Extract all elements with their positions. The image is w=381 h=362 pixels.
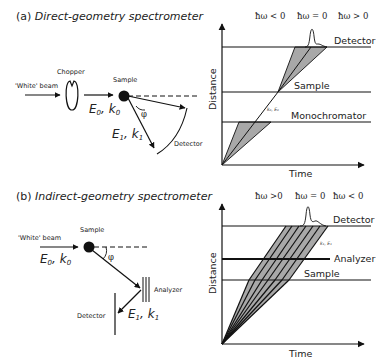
detector-label: Detector [77, 312, 106, 320]
chopper-label: Chopper [57, 68, 85, 76]
panel-b-plot: Distance Time [207, 191, 375, 359]
angle-arc [103, 247, 107, 259]
sample-label: Sample [113, 76, 137, 84]
panel-a-title: (a) Direct-geometry spectrometer [16, 10, 204, 23]
monochromator-line-label: Monochromator [291, 110, 366, 121]
elastic-label: ħω = 0 [295, 191, 325, 201]
energy-gain-label: ħω > 0 [338, 11, 368, 21]
incident-energy-label: E0, k0 [40, 252, 72, 267]
analyzer-crystal-icon [143, 277, 149, 302]
sample-line-label: Sample [304, 268, 340, 279]
panel-a: (a) Direct-geometry spectrometer 'White'… [15, 10, 375, 179]
incident-ray [222, 92, 278, 165]
x-axis-label: Time [288, 168, 312, 179]
angle-phi-label: φ [108, 252, 114, 262]
detector-label: Detector [174, 140, 203, 148]
detector-line-label: Detector [333, 214, 374, 225]
sample-icon [119, 91, 130, 102]
sample-line-label: Sample [294, 80, 330, 91]
panel-a-schematic: 'White' beam Chopper E0, k0 Sample φ E1,… [15, 68, 203, 154]
spectrum-peak [300, 207, 326, 226]
panel-a-plot: Distance Time Detector Sample Monochroma… [207, 11, 375, 179]
sample-label: Sample [80, 226, 104, 234]
energy-loss-label: ħω < 0 [333, 191, 363, 201]
y-axis-label: Distance [207, 68, 218, 110]
panel-b-schematic: 'White' beam E0, k0 Sample φ Analyzer De… [18, 226, 183, 335]
white-beam-label: 'White' beam [15, 82, 58, 90]
panel-b: (b) Indirect-geometry spectrometer 'Whit… [16, 190, 375, 359]
incident-energy-label: E0, k0 [89, 102, 121, 117]
elastic-label: ħω = 0 [297, 11, 327, 21]
scattered-energy-label: E1, k1 [128, 307, 159, 322]
analyzer-label: Analyzer [154, 286, 183, 294]
ray-label: k₁, E₁ [320, 241, 332, 246]
spectrometer-diagram: (a) Direct-geometry spectrometer 'White'… [0, 0, 381, 362]
detector-line-label: Detector [334, 35, 375, 46]
x-axis-label: Time [288, 348, 312, 359]
panel-b-title: (b) Indirect-geometry spectrometer [16, 190, 213, 203]
incident-rays [222, 280, 289, 344]
white-beam-label: 'White' beam [18, 234, 61, 242]
ray-label: k₀, E₀ [267, 107, 279, 112]
angle-phi-label: φ [141, 109, 147, 119]
chopper-icon [66, 81, 78, 110]
analyzer-line-label: Analyzer [334, 253, 375, 264]
energy-gain-label: ħω >0 [255, 191, 283, 201]
energy-loss-label: ħω < 0 [255, 11, 285, 21]
scattered-energy-label: E1, k1 [112, 127, 143, 142]
scattered-beam-arrow [92, 250, 140, 288]
y-axis-label: Distance [207, 252, 218, 294]
spectrum-peak [305, 29, 327, 47]
shade-monochromator [222, 122, 271, 165]
